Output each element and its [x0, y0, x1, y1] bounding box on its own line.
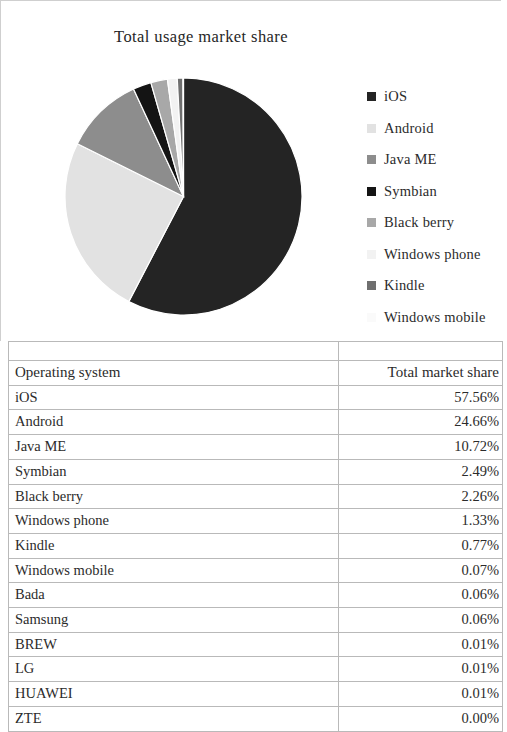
chart-panel: Total usage market share iOSAndroidJava …: [0, 0, 501, 341]
legend-item[interactable]: Kindle: [367, 270, 507, 302]
legend-item-label: iOS: [384, 88, 407, 105]
cell-operating-system: Black berry: [9, 484, 339, 509]
cell-total-market-share: 2.26%: [339, 484, 503, 509]
legend-item[interactable]: Java ME: [367, 144, 507, 176]
cell-operating-system: Windows phone: [9, 509, 339, 534]
spacer-cell-os: [9, 342, 339, 361]
table-spacer-row: [9, 342, 503, 361]
cell-total-market-share: 2.49%: [339, 459, 503, 484]
pie-chart: [65, 78, 302, 315]
pie-chart-svg: [65, 78, 302, 315]
pie-slices: [65, 78, 302, 315]
cell-operating-system: Bada: [9, 583, 339, 608]
legend-item-label: Black berry: [384, 214, 454, 231]
cell-operating-system: ZTE: [9, 706, 339, 731]
table-row: ZTE0.00%: [9, 706, 503, 731]
cell-total-market-share: 0.00%: [339, 706, 503, 731]
cell-total-market-share: 0.01%: [339, 657, 503, 682]
legend-item[interactable]: iOS: [367, 81, 507, 113]
cell-operating-system: Symbian: [9, 459, 339, 484]
legend-swatch-kindle: [367, 281, 376, 290]
pie-slice[interactable]: [183, 78, 184, 197]
table-row: iOS57.56%: [9, 385, 503, 410]
cell-operating-system: Windows mobile: [9, 558, 339, 583]
table-row: Windows mobile0.07%: [9, 558, 503, 583]
cell-total-market-share: 24.66%: [339, 410, 503, 435]
table-header-total-market-share: Total market share: [339, 361, 503, 386]
chart-legend: iOSAndroidJava MESymbianBlack berryWindo…: [367, 81, 507, 333]
legend-swatch-black-berry: [367, 218, 376, 227]
table-row: Java ME10.72%: [9, 435, 503, 460]
legend-swatch-windows-phone: [367, 250, 376, 259]
cell-total-market-share: 0.01%: [339, 682, 503, 707]
cell-operating-system: Samsung: [9, 608, 339, 633]
legend-item-label: Windows mobile: [384, 309, 486, 326]
legend-swatch-windows-mobile: [367, 313, 376, 322]
legend-item-label: Java ME: [384, 151, 437, 168]
cell-operating-system: LG: [9, 657, 339, 682]
table-row: LG0.01%: [9, 657, 503, 682]
cell-operating-system: Java ME: [9, 435, 339, 460]
table-header-operating-system: Operating system: [9, 361, 339, 386]
cell-operating-system: Kindle: [9, 533, 339, 558]
table-row: Symbian2.49%: [9, 459, 503, 484]
chart-title: Total usage market share: [1, 27, 401, 47]
table-row: Samsung0.06%: [9, 608, 503, 633]
legend-swatch-symbian: [367, 187, 376, 196]
market-share-table: Operating systemTotal market shareiOS57.…: [8, 341, 503, 732]
table-row: Android24.66%: [9, 410, 503, 435]
table-row: Bada0.06%: [9, 583, 503, 608]
legend-item[interactable]: Black berry: [367, 207, 507, 239]
cell-total-market-share: 1.33%: [339, 509, 503, 534]
table-row: Kindle0.77%: [9, 533, 503, 558]
legend-item[interactable]: Android: [367, 113, 507, 145]
cell-total-market-share: 0.07%: [339, 558, 503, 583]
legend-item-label: Windows phone: [384, 246, 481, 263]
cell-total-market-share: 10.72%: [339, 435, 503, 460]
cell-operating-system: Android: [9, 410, 339, 435]
legend-item-label: Kindle: [384, 277, 425, 294]
legend-item-label: Android: [384, 120, 434, 137]
legend-item-label: Symbian: [384, 183, 437, 200]
cell-total-market-share: 57.56%: [339, 385, 503, 410]
cell-total-market-share: 0.01%: [339, 632, 503, 657]
legend-item[interactable]: Windows phone: [367, 239, 507, 271]
legend-swatch-java-me: [367, 155, 376, 164]
table-row: Windows phone1.33%: [9, 509, 503, 534]
cell-operating-system: BREW: [9, 632, 339, 657]
legend-swatch-ios: [367, 92, 376, 101]
legend-item[interactable]: Windows mobile: [367, 302, 507, 334]
table-row: HUAWEI0.01%: [9, 682, 503, 707]
cell-total-market-share: 0.77%: [339, 533, 503, 558]
legend-item[interactable]: Symbian: [367, 176, 507, 208]
legend-swatch-android: [367, 124, 376, 133]
cell-operating-system: HUAWEI: [9, 682, 339, 707]
table-header-row: Operating systemTotal market share: [9, 361, 503, 386]
cell-total-market-share: 0.06%: [339, 608, 503, 633]
cell-total-market-share: 0.06%: [339, 583, 503, 608]
table-row: BREW0.01%: [9, 632, 503, 657]
spacer-cell-value: [339, 342, 503, 361]
table-row: Black berry2.26%: [9, 484, 503, 509]
cell-operating-system: iOS: [9, 385, 339, 410]
